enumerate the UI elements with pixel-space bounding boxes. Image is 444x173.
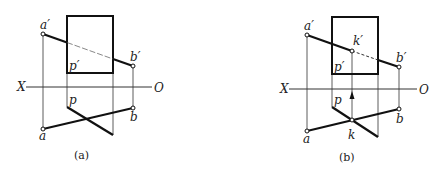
label-b: b [130,110,138,124]
point-k-prime [350,49,354,53]
label-x: X [16,80,26,94]
arrow-up-icon [350,91,355,99]
label-a: a [303,132,310,146]
label-b: b [396,112,404,126]
line-kb-prime-hidden [352,51,378,60]
label-o: O [154,81,164,95]
label-k-prime: k′ [353,34,363,48]
line-ab-prime-visible-1 [43,34,67,43]
panel-a: a′ b′ p′ X O p b a (a) [16,16,164,162]
label-b-prime: b′ [396,51,407,65]
label-k: k [348,128,355,142]
line-ab-prime-hidden [67,43,113,60]
label-x: X [279,82,289,96]
label-b-prime: b′ [130,50,141,64]
point-k [350,118,354,122]
line-ab [43,108,133,129]
point-a-prime [305,33,309,37]
point-b-prime [397,65,401,69]
projection-diagram: a′ b′ p′ X O p b a (a) a′ k′ b′ p′ X [0,0,444,173]
point-b-prime [131,64,135,68]
label-a: a [39,129,46,143]
point-a-prime [41,32,45,36]
label-a-prime: a′ [40,18,50,32]
label-p-prime: p′ [334,60,345,74]
label-p: p [334,93,342,107]
caption-a: (a) [74,149,89,162]
label-p-prime: p′ [69,59,80,73]
label-a-prime: a′ [304,19,314,33]
label-o: O [419,83,429,97]
line-ak-prime-visible [307,35,352,51]
panel-b: a′ k′ b′ p′ X O p b k a (b) [279,17,429,164]
caption-b: (b) [339,151,355,164]
label-p: p [69,93,77,107]
point-b [397,107,401,111]
